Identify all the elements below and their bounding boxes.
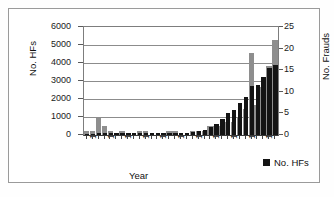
y-axis-left-tick-label: 5000 bbox=[23, 40, 71, 49]
chart-screenshot: No. HFs No. Frauds Year 0100020003000400… bbox=[0, 0, 334, 197]
legend: No. HFs bbox=[263, 157, 309, 168]
bar-hfs bbox=[226, 113, 230, 135]
bar-hfs bbox=[120, 133, 124, 135]
bar-series-hfs bbox=[84, 27, 278, 135]
bar-hfs bbox=[244, 97, 248, 135]
y-axis-right-tick-label: 0 bbox=[284, 130, 308, 139]
y-axis-right-tick-label: 5 bbox=[284, 108, 308, 117]
bar-hfs bbox=[126, 133, 130, 135]
bar-hfs bbox=[232, 110, 236, 135]
y-axis-right-tick-label: 10 bbox=[284, 87, 308, 96]
plot-area bbox=[83, 26, 279, 136]
bar-hfs bbox=[179, 133, 183, 135]
bar-hfs bbox=[161, 133, 165, 135]
bar-hfs bbox=[91, 134, 95, 135]
bar-hfs bbox=[144, 133, 148, 135]
y-axis-left-tick-label: 4000 bbox=[23, 58, 71, 67]
y-axis-left-tick-label: 6000 bbox=[23, 22, 71, 31]
y-axis-left-tick-label: 0 bbox=[23, 130, 71, 139]
bar-hfs bbox=[138, 133, 142, 135]
y-axis-left-tick-label: 1000 bbox=[23, 112, 71, 121]
bar-hfs bbox=[261, 77, 265, 135]
bar-hfs bbox=[214, 124, 218, 135]
y-axis-right-tick-label: 25 bbox=[284, 22, 308, 31]
bar-hfs bbox=[109, 133, 113, 135]
bar-hfs bbox=[238, 103, 242, 135]
y-axis-left-tick-label: 3000 bbox=[23, 76, 71, 85]
bar-hfs bbox=[256, 85, 260, 135]
legend-label-no-hfs: No. HFs bbox=[274, 157, 309, 168]
bar-hfs bbox=[191, 132, 195, 135]
figure-frame: No. HFs No. Frauds Year 0100020003000400… bbox=[8, 8, 320, 183]
bar-hfs bbox=[103, 133, 107, 135]
y-axis-right-tick-label: 20 bbox=[284, 44, 308, 53]
bar-hfs bbox=[173, 133, 177, 135]
bar-hfs bbox=[114, 133, 118, 135]
bar-hfs bbox=[267, 68, 271, 135]
y-axis-right-tick-label: 15 bbox=[284, 65, 308, 74]
bar-hfs bbox=[220, 119, 224, 135]
bar-hfs bbox=[167, 133, 171, 135]
bar-hfs bbox=[273, 65, 277, 135]
bar-hfs bbox=[97, 133, 101, 135]
bar-hfs bbox=[156, 133, 160, 135]
bar-hfs bbox=[209, 127, 213, 135]
y-axis-left-tick-label: 2000 bbox=[23, 94, 71, 103]
bar-hfs bbox=[250, 86, 254, 135]
bar-hfs bbox=[203, 130, 207, 135]
bar-hfs bbox=[197, 131, 201, 135]
bar-hfs bbox=[150, 133, 154, 135]
legend-swatch-no-hfs bbox=[263, 159, 270, 166]
bar-hfs bbox=[85, 134, 89, 135]
bar-hfs bbox=[132, 133, 136, 135]
bar-hfs bbox=[185, 133, 189, 135]
y-axis-right-title: No. Frauds bbox=[320, 22, 331, 92]
x-axis-title: Year bbox=[129, 170, 148, 181]
